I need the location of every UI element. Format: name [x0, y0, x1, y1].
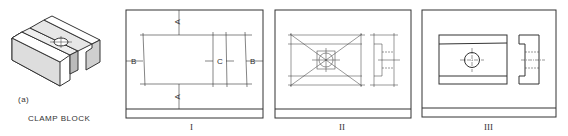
- panel-caption-i: I: [190, 122, 193, 132]
- clamp-block-illustration: [12, 16, 100, 86]
- panel-i-drawing: [126, 10, 263, 118]
- panel-caption-ii: II: [339, 122, 345, 132]
- panel-ii-drawing: [275, 10, 411, 118]
- part-name: CLAMP BLOCK: [28, 114, 90, 123]
- panel-iii-drawing: [422, 10, 556, 117]
- panel-caption-iii: III: [484, 122, 493, 132]
- dim-label-b-left: B: [131, 57, 137, 66]
- part-label: (a): [18, 95, 29, 104]
- dim-label-b-right: B: [250, 57, 256, 66]
- dim-label-a-top: A: [173, 19, 182, 25]
- dim-label-c: C: [217, 57, 223, 66]
- dim-label-a-bottom: A: [173, 94, 182, 100]
